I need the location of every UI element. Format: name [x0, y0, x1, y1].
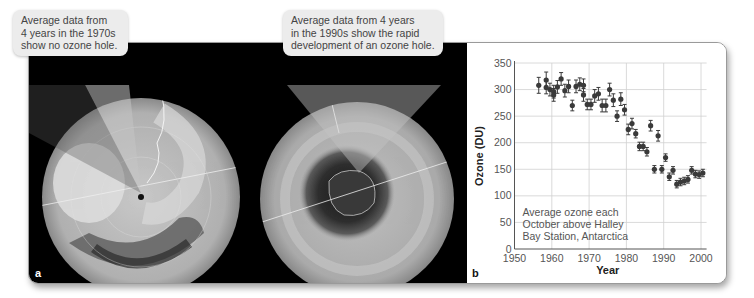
figure-frame: a 05010015020025030035019501960197019801… — [28, 42, 727, 284]
data-point — [614, 111, 619, 122]
ozone-scatter-chart: 0501001502002503003501950196019701980199… — [467, 43, 726, 283]
y-tick-label: 150 — [494, 163, 512, 175]
y-tick-label: 350 — [494, 57, 512, 69]
data-point — [633, 129, 638, 138]
panel-label-a: a — [35, 267, 41, 279]
data-point — [629, 118, 634, 129]
panel-label-b: b — [472, 267, 479, 279]
callout-1990s: Average data from 4 years in the 1990s s… — [283, 10, 443, 56]
data-point — [559, 73, 564, 86]
data-point — [641, 142, 646, 151]
data-point — [603, 99, 608, 112]
y-tick-label: 200 — [494, 136, 512, 148]
y-tick-label: 50 — [500, 216, 512, 228]
x-tick-label: 2000 — [689, 252, 713, 264]
x-tick-label: 1960 — [540, 252, 564, 264]
x-tick-label: 1950 — [503, 252, 527, 264]
x-axis-title: Year — [596, 264, 620, 276]
panel-b-ozone-chart: 0501001502002503003501950196019701980199… — [467, 43, 726, 283]
callout-1970s: Average data from 4 years in the 1970s s… — [13, 10, 128, 56]
x-tick-label: 1980 — [615, 252, 639, 264]
data-point — [570, 100, 575, 111]
y-tick-label: 100 — [494, 189, 512, 201]
chart-annotation: Average ozone each — [523, 206, 619, 218]
x-tick-label: 1970 — [577, 252, 601, 264]
data-point — [536, 77, 541, 93]
y-tick-label: 300 — [494, 83, 512, 95]
data-point — [648, 120, 653, 131]
y-tick-label: 250 — [494, 110, 512, 122]
data-point — [618, 93, 623, 106]
y-axis-title: Ozone (DU) — [473, 126, 485, 186]
data-point — [656, 130, 661, 141]
data-point — [644, 147, 649, 156]
x-tick-label: 1990 — [652, 252, 676, 264]
globe-1970s — [29, 43, 467, 283]
chart-annotation: Bay Station, Antarctica — [523, 230, 629, 242]
chart-annotation: October above Halley — [523, 218, 625, 230]
data-point — [652, 166, 657, 173]
panel-a-satellite-maps: a — [29, 43, 467, 283]
